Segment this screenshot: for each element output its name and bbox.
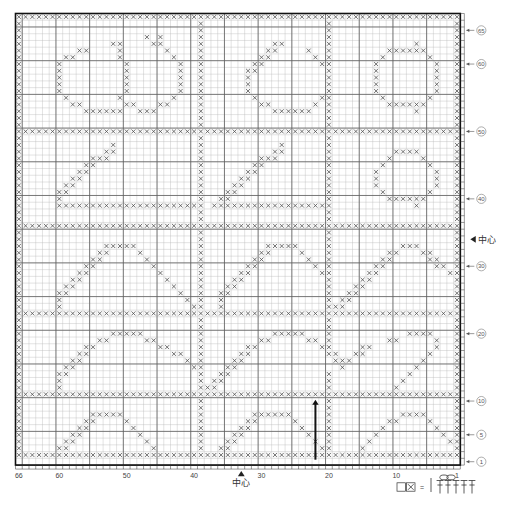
- x-tick-label-60: 60: [55, 472, 63, 479]
- center-arrow-y: [470, 236, 475, 243]
- start-arrow: [312, 400, 318, 460]
- y-tick-label-1: 1: [480, 459, 484, 465]
- y-tick-label-60: 60: [478, 61, 485, 67]
- x-tick-label-50: 50: [123, 472, 131, 479]
- x-tick-label-20: 20: [325, 472, 333, 479]
- stitch-symbol-icon: [431, 475, 475, 494]
- y-tick-label-5: 5: [480, 432, 484, 438]
- y-axis-labels: 6560504030201051: [466, 26, 486, 467]
- y-tick-label-30: 30: [478, 263, 485, 269]
- legend: =: [397, 475, 475, 494]
- filet-crochet-chart: 6660504030201016560504030201051中心中心=: [0, 0, 511, 506]
- x-tick-label-66: 66: [15, 472, 23, 479]
- legend-equals: =: [420, 484, 424, 491]
- x-tick-label-30: 30: [258, 472, 266, 479]
- y-tick-label-10: 10: [478, 398, 485, 404]
- center-arrow-x: [238, 471, 245, 476]
- x-tick-label-40: 40: [190, 472, 198, 479]
- center-label-y: 中心: [478, 234, 496, 245]
- y-tick-label-50: 50: [478, 129, 485, 135]
- x-tick-label-10: 10: [392, 472, 400, 479]
- y-tick-label-65: 65: [478, 28, 485, 34]
- center-label-x: 中心: [232, 477, 250, 488]
- chart-canvas: 6660504030201016560504030201051中心中心=: [0, 0, 511, 506]
- legend-empty-box: [397, 483, 405, 491]
- y-tick-label-40: 40: [478, 196, 485, 202]
- x-tick-label-1: 1: [455, 472, 459, 479]
- y-tick-label-20: 20: [478, 331, 485, 337]
